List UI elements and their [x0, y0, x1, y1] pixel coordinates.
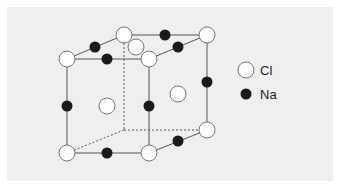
na-atom — [90, 42, 101, 53]
legend-label-cl: Cl — [260, 64, 272, 77]
cl-atom — [141, 51, 157, 67]
legend-cl-icon — [238, 62, 254, 78]
hidden-edge-bottom-left — [67, 130, 124, 153]
na-atom — [173, 136, 184, 147]
cl-atom-face-top — [128, 39, 144, 55]
nacl-unit-cell-diagram — [0, 0, 340, 190]
na-atom — [173, 42, 184, 53]
cl-atom — [141, 145, 157, 161]
na-atom — [144, 101, 155, 112]
na-atom — [62, 101, 73, 112]
cl-atom — [59, 145, 75, 161]
cl-atom-face-right — [170, 86, 186, 102]
legend-na-icon — [241, 89, 252, 100]
cl-atoms — [59, 27, 215, 161]
cl-atom — [199, 122, 215, 138]
na-atom — [160, 30, 171, 41]
cl-atom — [116, 27, 132, 43]
cl-atom — [59, 51, 75, 67]
na-atom — [102, 54, 113, 65]
cl-atom-face-front — [99, 98, 115, 114]
na-atom — [102, 148, 113, 159]
cl-atom — [199, 27, 215, 43]
legend-label-na: Na — [260, 88, 277, 101]
legend — [238, 62, 254, 100]
na-atom — [202, 77, 213, 88]
